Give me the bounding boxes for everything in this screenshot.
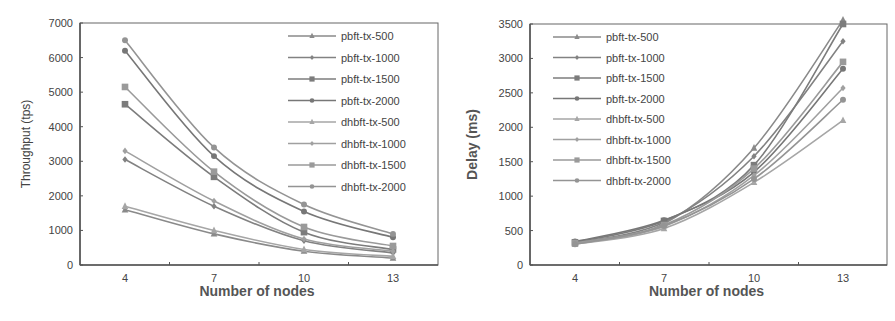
square-marker-icon [390, 243, 397, 250]
legend-label: dhbft-tx-500 [606, 113, 665, 125]
y-tick-label: 2000 [49, 190, 73, 202]
y-tick-label: 0 [517, 259, 523, 271]
square-marker-icon [122, 101, 129, 108]
square-marker-icon [574, 75, 579, 80]
legend-item: pbft-tx-2000 [288, 95, 400, 107]
legend-item: dhbft-tx-1500 [288, 159, 406, 171]
legend-item: pbft-tx-1000 [288, 52, 400, 64]
square-marker-icon [309, 162, 314, 167]
legend-item: pbft-tx-500 [553, 31, 659, 43]
circle-marker-icon [575, 96, 580, 101]
legend-item: pbft-tx-2000 [553, 93, 665, 105]
x-tick-label: 4 [122, 272, 128, 284]
y-tick-label: 500 [505, 225, 523, 237]
y-tick-label: 2500 [499, 87, 523, 99]
x-tick-label: 4 [572, 272, 578, 284]
y-tick-label: 3500 [499, 18, 523, 30]
circle-marker-icon [575, 178, 580, 183]
y-tick-label: 3000 [499, 52, 523, 64]
diamond-marker-icon [575, 137, 579, 142]
x-tick-label: 13 [387, 272, 399, 284]
square-marker-icon [309, 76, 314, 81]
circle-marker-icon [310, 98, 315, 103]
diamond-marker-icon [122, 148, 127, 155]
square-marker-icon [301, 224, 308, 231]
legend: pbft-tx-500pbft-tx-1000pbft-tx-1500pbft-… [288, 30, 406, 193]
y-tick-label: 6000 [49, 52, 73, 64]
legend-item: pbft-tx-1500 [288, 73, 400, 85]
legend: pbft-tx-500pbft-tx-1000pbft-tx-1500pbft-… [553, 31, 671, 187]
legend-label: dhbft-tx-500 [341, 116, 400, 128]
legend-item: pbft-tx-500 [288, 30, 394, 42]
y-tick-label: 0 [67, 259, 73, 271]
circle-marker-icon [751, 176, 757, 182]
legend-item: dhbft-tx-500 [553, 113, 665, 125]
triangle-marker-icon [122, 202, 129, 209]
circle-marker-icon [122, 37, 128, 43]
legend-label: dhbft-tx-1000 [341, 138, 406, 150]
legend-label: pbft-tx-2000 [341, 95, 400, 107]
y-tick-label: 5000 [49, 86, 73, 98]
square-marker-icon [122, 84, 129, 91]
series-pbft-tx-500 [122, 206, 397, 261]
circle-marker-icon [301, 208, 307, 214]
y-tick-label: 7000 [49, 17, 73, 29]
circle-marker-icon [310, 184, 315, 189]
legend-label: pbft-tx-500 [606, 31, 659, 43]
legend-label: dhbft-tx-2000 [606, 175, 671, 187]
legend-label: dhbft-tx-2000 [341, 181, 406, 193]
legend-label: pbft-tx-1000 [341, 52, 400, 64]
legend-label: pbft-tx-1500 [606, 72, 665, 84]
y-tick-label: 1500 [499, 156, 523, 168]
diamond-marker-icon [211, 198, 216, 205]
triangle-marker-icon [840, 117, 847, 124]
legend-item: dhbft-tx-1000 [553, 134, 671, 146]
y-tick-label: 1000 [49, 224, 73, 236]
delay-chart-svg: 0500100015002000250030003500471013Number… [450, 0, 895, 321]
x-axis-title: Number of nodes [649, 283, 764, 299]
circle-marker-icon [661, 223, 667, 229]
legend-label: dhbft-tx-1000 [606, 134, 671, 146]
throughput-chart: 01000200030004000500060007000471013Numbe… [0, 0, 450, 321]
diamond-marker-icon [310, 141, 314, 146]
square-marker-icon [211, 168, 218, 175]
legend-item: dhbft-tx-1000 [288, 138, 406, 150]
circle-marker-icon [301, 202, 307, 208]
circle-marker-icon [211, 153, 217, 159]
plot-frame [530, 24, 887, 265]
diamond-marker-icon [310, 55, 314, 60]
diamond-marker-icon [122, 156, 127, 163]
legend-item: pbft-tx-1000 [553, 52, 665, 64]
legend-label: pbft-tx-1500 [341, 73, 400, 85]
square-marker-icon [574, 157, 579, 162]
legend-label: dhbft-tx-1500 [341, 159, 406, 171]
square-marker-icon [751, 165, 758, 172]
x-axis-title: Number of nodes [199, 283, 314, 299]
series-line [575, 62, 843, 243]
circle-marker-icon [840, 66, 846, 72]
legend-label: pbft-tx-1000 [606, 52, 665, 64]
circle-marker-icon [390, 231, 396, 237]
square-marker-icon [840, 59, 847, 66]
circle-marker-icon [840, 97, 846, 103]
legend-label: pbft-tx-500 [341, 30, 394, 42]
series-dhbft-tx-1500 [572, 59, 847, 247]
circle-marker-icon [572, 241, 578, 247]
y-tick-label: 4000 [49, 121, 73, 133]
throughput-chart-svg: 01000200030004000500060007000471013Numbe… [0, 0, 450, 321]
y-tick-label: 2000 [499, 121, 523, 133]
y-tick-label: 3000 [49, 155, 73, 167]
legend-item: dhbft-tx-500 [288, 116, 400, 128]
square-marker-icon [840, 21, 847, 28]
legend-label: dhbft-tx-1500 [606, 154, 671, 166]
y-tick-label: 1000 [499, 190, 523, 202]
y-axis-title: Throughput (tps) [19, 100, 33, 189]
legend-item: pbft-tx-1500 [553, 72, 665, 84]
circle-marker-icon [122, 48, 128, 54]
circle-marker-icon [211, 144, 217, 150]
x-tick-label: 13 [837, 272, 849, 284]
legend-item: dhbft-tx-2000 [288, 181, 406, 193]
delay-chart: 0500100015002000250030003500471013Number… [450, 0, 895, 321]
legend-item: dhbft-tx-2000 [553, 175, 671, 187]
legend-label: pbft-tx-2000 [606, 93, 665, 105]
